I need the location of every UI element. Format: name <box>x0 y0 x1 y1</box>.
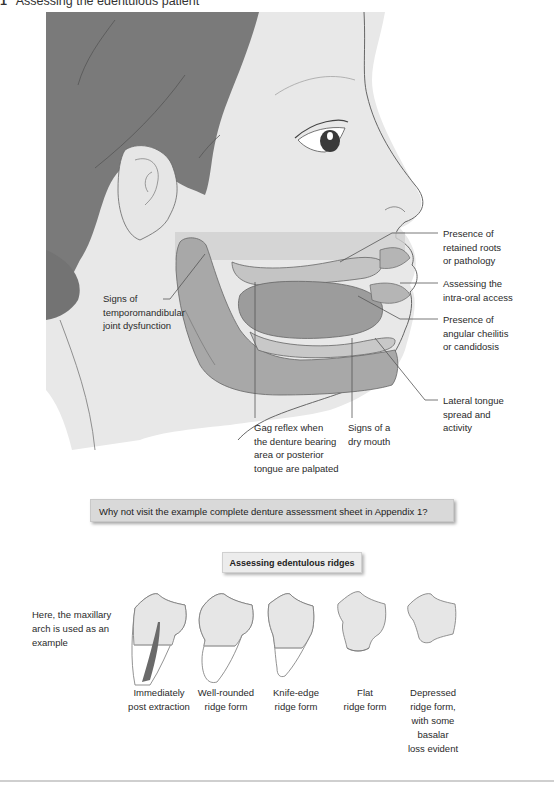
label-line: spread and <box>443 408 504 422</box>
label-tmj-dysfunction: Signs of temporomandibular joint dysfunc… <box>103 292 185 333</box>
label-line: intra-oral access <box>443 291 513 305</box>
ridges-section-title: Assessing edentulous ridges <box>222 552 362 573</box>
label-line: loss evident <box>397 742 469 756</box>
label-line: tongue are palpated <box>254 462 339 476</box>
ridge-knife-edge-icon <box>268 594 314 677</box>
label-line: ridge form <box>329 700 401 714</box>
ridge-immediate-icon <box>132 594 186 685</box>
ridge-label-depressed: Depressed ridge form, with some basalar … <box>397 686 469 756</box>
tongue <box>238 281 382 338</box>
label-line: basalar <box>397 728 469 742</box>
label-line: Assessing the <box>443 277 513 291</box>
label-line: Gag reflex when <box>254 421 339 435</box>
label-line: the denture bearing <box>254 435 339 449</box>
label-line: joint dysfunction <box>103 319 185 333</box>
label-line: Knife-edge <box>260 686 332 700</box>
label-line: retained roots <box>443 241 501 255</box>
footer-divider <box>0 780 554 782</box>
label-lateral-tongue: Lateral tongue spread and activity <box>443 394 504 435</box>
label-line: dry mouth <box>348 435 390 449</box>
label-gag-reflex: Gag reflex when the denture bearing area… <box>254 421 339 475</box>
label-line: activity <box>443 421 504 435</box>
label-line: Depressed <box>397 686 469 700</box>
label-intra-oral-access: Assessing the intra-oral access <box>443 277 513 304</box>
label-line: Well-rounded <box>190 686 262 700</box>
appendix-callout: Why not visit the example complete dentu… <box>90 499 454 522</box>
label-line: ridge form <box>260 700 332 714</box>
label-line: Signs of a <box>348 421 390 435</box>
label-line: or candidosis <box>443 340 508 354</box>
ridge-forms-diagram <box>125 590 485 690</box>
label-retained-roots: Presence of retained roots or pathology <box>443 227 501 268</box>
label-line: with some <box>397 714 469 728</box>
maxillary-arch-note: Here, the maxillary arch is used as an e… <box>32 608 127 650</box>
label-line: ridge form, <box>397 700 469 714</box>
ridge-flat-icon <box>338 592 386 651</box>
ridge-label-flat: Flat ridge form <box>329 686 401 714</box>
label-angular-cheilitis: Presence of angular cheilitis or candido… <box>443 313 508 354</box>
label-line: Signs of <box>103 292 185 306</box>
label-line: angular cheilitis <box>443 327 508 341</box>
ridge-label-immediate: Immediately post extraction <box>123 686 195 714</box>
ridge-label-knife-edge: Knife-edge ridge form <box>260 686 332 714</box>
label-line: or pathology <box>443 254 501 268</box>
label-line: Immediately <box>123 686 195 700</box>
ridge-label-well-rounded: Well-rounded ridge form <box>190 686 262 714</box>
label-line: Lateral tongue <box>443 394 504 408</box>
label-line: Flat <box>329 686 401 700</box>
ridge-well-rounded-icon <box>199 594 253 683</box>
ridge-depressed-icon <box>408 594 456 643</box>
label-line: Presence of <box>443 313 508 327</box>
label-line: temporomandibular <box>103 306 185 320</box>
label-dry-mouth: Signs of a dry mouth <box>348 421 390 448</box>
label-line: ridge form <box>190 700 262 714</box>
label-line: post extraction <box>123 700 195 714</box>
label-line: Presence of <box>443 227 501 241</box>
label-line: area or posterior <box>254 448 339 462</box>
